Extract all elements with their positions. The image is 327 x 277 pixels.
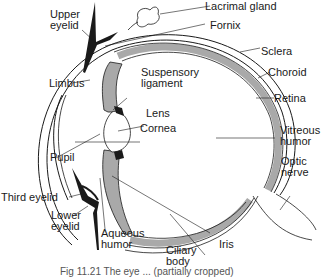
label-choroid: Choroid xyxy=(268,67,307,78)
label-ciliary-body: Ciliarybody xyxy=(166,245,197,267)
label-optic-nerve: Opticnerve xyxy=(281,156,309,178)
optic-nerve-shape xyxy=(253,194,316,240)
label-aqueous-humor: Aqueoushumor xyxy=(101,228,144,250)
label-upper-eyelid: Uppereyelid xyxy=(50,9,80,31)
label-vitreous-humor: Vitreoushumor xyxy=(280,125,320,147)
label-cornea: Cornea xyxy=(140,123,176,134)
label-pupil: Pupil xyxy=(50,152,74,163)
label-iris: Iris xyxy=(219,239,234,250)
label-fornix: Fornix xyxy=(210,20,241,31)
label-limbus: Limbus xyxy=(49,78,84,89)
figure-caption: Fig 11.21 The eye ... (partially cropped… xyxy=(60,266,234,277)
label-sclera: Sclera xyxy=(261,46,292,57)
label-retina: Retina xyxy=(274,93,306,104)
label-suspensory-ligament: Suspensoryligament xyxy=(141,67,199,89)
label-third-eyelid: Third eyelid xyxy=(1,192,58,203)
lacrimal-gland-shape xyxy=(137,7,159,27)
label-lower-eyelid: Lowereyelid xyxy=(51,210,81,232)
label-lens: Lens xyxy=(146,108,170,119)
lens-shape xyxy=(104,111,131,152)
label-lacrimal-gland: Lacrimal gland xyxy=(205,1,277,12)
